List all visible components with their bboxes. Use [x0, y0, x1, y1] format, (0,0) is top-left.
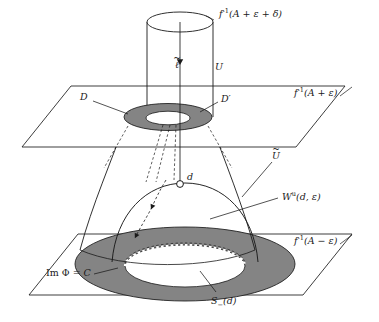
- upper-annulus-group: [124, 104, 212, 131]
- label-image-phi: Im Φ = C: [46, 268, 91, 278]
- label-lower-level-set: f-1(A − ε): [294, 236, 337, 246]
- leader-line-funnel-label: [242, 162, 272, 197]
- upper-annulus-inner-hole: [146, 111, 190, 125]
- label-unstable-manifold: Wu(d, ε): [282, 192, 321, 202]
- label-cylinder: U: [215, 62, 223, 72]
- dashed-flow-arrow-upper: [152, 180, 166, 207]
- label-upper-level-set: f-1(A + ε): [294, 88, 337, 98]
- label-disk-right: D′: [221, 94, 231, 104]
- label-sphere-minus: S−(d): [211, 296, 237, 306]
- critical-point-group: [177, 181, 184, 188]
- morse-theory-diagram: f-1(A + ε + δ) ~ℓ U f-1(A + ε) D D′ ~U d…: [0, 0, 379, 322]
- label-top-level-set: f-1(A + ε + δ): [219, 9, 282, 19]
- label-flow-line: ~ℓ: [175, 60, 179, 70]
- label-funnel: ~U: [272, 151, 280, 161]
- label-disk-left: D: [80, 92, 88, 102]
- label-critical-point: d: [187, 172, 193, 182]
- critical-point-marker: [177, 181, 184, 188]
